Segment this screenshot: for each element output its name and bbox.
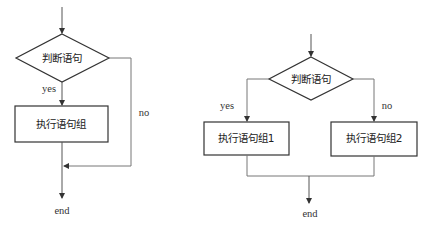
yes-label: yes (220, 100, 234, 111)
yes-branch-line (247, 79, 269, 121)
decision-label: 判断语句 (42, 52, 82, 64)
no-branch-line (353, 79, 374, 121)
double-branch-flowchart: 判断语句 yes no 执行语句组1 执行语句组2 end (204, 34, 417, 219)
merge-line (247, 155, 374, 176)
end-label: end (302, 208, 318, 219)
decision-label: 判断语句 (291, 73, 331, 85)
no-label: no (382, 100, 393, 111)
process-label: 执行语句组 (36, 118, 87, 130)
flowchart-canvas: 判断语句 yes 执行语句组 no end 判断语句 yes no 执行语句组1… (0, 0, 430, 231)
process-no-label: 执行语句组2 (346, 132, 403, 144)
process-yes-label: 执行语句组1 (218, 132, 275, 144)
no-label: no (139, 107, 150, 118)
end-label: end (54, 205, 70, 216)
yes-label: yes (42, 83, 56, 94)
single-branch-flowchart: 判断语句 yes 执行语句组 no end (15, 7, 149, 216)
